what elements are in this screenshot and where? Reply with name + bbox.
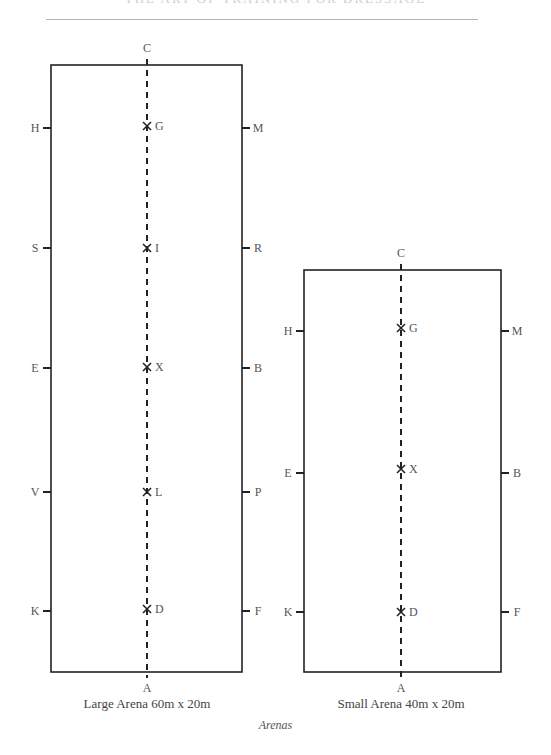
center-point-letter: D [409, 605, 418, 619]
large-arena: CALarge Arena 60m x 20mHSEVKMRBPFGIXLD [31, 41, 264, 711]
marker-letter-left: K [31, 604, 40, 618]
marker-letter-top: C [397, 246, 405, 260]
marker-letter-left: E [284, 466, 291, 480]
marker-letter-bottom: A [143, 681, 152, 695]
center-point-letter: L [155, 485, 162, 499]
figure-caption: Arenas [0, 718, 551, 733]
center-point-letter: X [155, 360, 164, 374]
marker-letter-left: H [284, 324, 293, 338]
center-point-letter: G [409, 321, 418, 335]
marker-letter-right: R [254, 241, 262, 255]
arena-name: Small Arena 40m x 20m [337, 696, 464, 711]
center-point-letter: I [155, 241, 159, 255]
marker-letter-right: F [514, 605, 521, 619]
marker-letter-left: V [31, 485, 40, 499]
arena-diagrams: CALarge Arena 60m x 20mHSEVKMRBPFGIXLDCA… [0, 0, 551, 755]
marker-letter-right: P [255, 485, 262, 499]
center-point-letter: G [155, 119, 164, 133]
small-arena: CASmall Arena 40m x 20mHEKMBFGXD [284, 246, 523, 711]
marker-letter-right: M [253, 121, 264, 135]
marker-letter-left: S [32, 241, 39, 255]
marker-letter-left: H [31, 121, 40, 135]
marker-letter-right: M [512, 324, 523, 338]
marker-letter-left: K [284, 605, 293, 619]
marker-letter-right: F [255, 604, 262, 618]
marker-letter-left: E [31, 361, 38, 375]
arena-name: Large Arena 60m x 20m [84, 696, 211, 711]
marker-letter-right: B [513, 466, 521, 480]
marker-letter-right: B [254, 361, 262, 375]
center-point-letter: D [155, 602, 164, 616]
center-point-letter: X [409, 462, 418, 476]
marker-letter-bottom: A [397, 681, 406, 695]
marker-letter-top: C [143, 41, 151, 55]
